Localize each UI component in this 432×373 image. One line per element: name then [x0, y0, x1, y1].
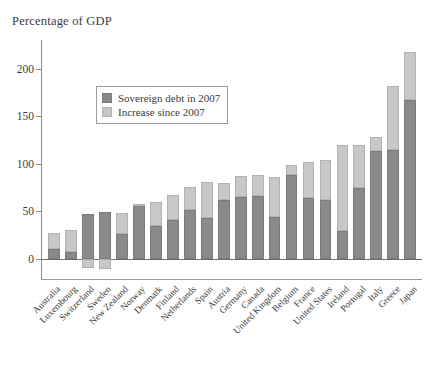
bar-segment-increase[interactable] — [353, 145, 365, 188]
bar-segment-sovereign-debt[interactable] — [201, 218, 213, 259]
bar-group[interactable] — [133, 40, 145, 280]
bar-segment-sovereign-debt[interactable] — [353, 188, 365, 259]
bar-segment-sovereign-debt[interactable] — [235, 197, 247, 259]
bar-group[interactable] — [286, 40, 298, 280]
bar-segment-increase[interactable] — [320, 160, 332, 200]
legend-swatch-icon-sovereign-debt — [102, 93, 112, 103]
bar-group[interactable] — [82, 40, 94, 280]
bar-group[interactable] — [218, 40, 230, 280]
bar-segment-sovereign-debt[interactable] — [218, 200, 230, 259]
legend-item-sovereign-debt: Sovereign debt in 2007 — [102, 91, 220, 105]
bar-segment-sovereign-debt[interactable] — [99, 212, 111, 259]
y-tick-label: 100 — [17, 158, 34, 170]
bar-segment-increase[interactable] — [235, 176, 247, 197]
bar-segment-sovereign-debt[interactable] — [387, 150, 399, 259]
bar-segment-increase[interactable] — [99, 259, 111, 269]
y-tick-label: 0 — [28, 253, 34, 265]
bar-segment-increase[interactable] — [116, 213, 128, 234]
bar-segment-sovereign-debt[interactable] — [167, 220, 179, 259]
bar-group[interactable] — [370, 40, 382, 280]
chart-figure: Percentage of GDP 050100150200 Australia… — [0, 0, 432, 373]
bar-segment-increase[interactable] — [269, 177, 281, 217]
bar-group[interactable] — [303, 40, 315, 280]
y-tick-label: 150 — [17, 110, 34, 122]
bar-segment-sovereign-debt[interactable] — [48, 249, 60, 259]
legend-label-increase: Increase since 2007 — [118, 105, 205, 119]
bar-group[interactable] — [235, 40, 247, 280]
bar-group[interactable] — [65, 40, 77, 280]
bar-segment-sovereign-debt[interactable] — [116, 234, 128, 259]
legend-item-increase: Increase since 2007 — [102, 105, 220, 119]
bar-segment-increase[interactable] — [303, 162, 315, 198]
bar-segment-sovereign-debt[interactable] — [269, 217, 281, 259]
legend-label-sovereign-debt: Sovereign debt in 2007 — [118, 91, 220, 105]
bar-segment-increase[interactable] — [167, 195, 179, 220]
bar-segment-sovereign-debt[interactable] — [150, 226, 162, 259]
bar-group[interactable] — [404, 40, 416, 280]
bar-group[interactable] — [353, 40, 365, 280]
bar-group[interactable] — [167, 40, 179, 280]
bar-segment-increase[interactable] — [387, 86, 399, 150]
y-tick-mark — [36, 116, 41, 117]
bar-segment-sovereign-debt[interactable] — [133, 205, 145, 259]
bar-group[interactable] — [201, 40, 213, 280]
bar-segment-increase[interactable] — [48, 233, 60, 249]
x-axis-label: Japan — [397, 284, 419, 306]
y-tick-mark — [36, 69, 41, 70]
bar-segment-sovereign-debt[interactable] — [252, 196, 264, 259]
bar-group[interactable] — [320, 40, 332, 280]
bar-segment-sovereign-debt[interactable] — [337, 231, 349, 259]
bar-segment-increase[interactable] — [404, 52, 416, 101]
bar-segment-sovereign-debt[interactable] — [303, 198, 315, 259]
bar-segment-sovereign-debt[interactable] — [65, 252, 77, 259]
bar-group[interactable] — [269, 40, 281, 280]
bar-group[interactable] — [116, 40, 128, 280]
bar-segment-increase[interactable] — [218, 183, 230, 200]
bar-segment-sovereign-debt[interactable] — [184, 210, 196, 259]
bar-segment-sovereign-debt[interactable] — [320, 200, 332, 259]
bar-group[interactable] — [387, 40, 399, 280]
bar-segment-increase[interactable] — [65, 230, 77, 253]
y-tick-label: 50 — [23, 205, 35, 217]
bar-group[interactable] — [48, 40, 60, 280]
bar-segment-sovereign-debt[interactable] — [82, 214, 94, 259]
bar-group[interactable] — [337, 40, 349, 280]
bar-segment-increase[interactable] — [201, 182, 213, 218]
bar-segment-increase[interactable] — [370, 137, 382, 150]
bar-segment-sovereign-debt[interactable] — [286, 175, 298, 259]
y-tick-label: 200 — [17, 63, 34, 75]
y-tick-mark — [36, 211, 41, 212]
bar-segment-sovereign-debt[interactable] — [370, 151, 382, 259]
plot-area: 050100150200 AustraliaLuxembourgSwitzerl… — [41, 40, 422, 280]
y-tick-mark — [36, 164, 41, 165]
y-axis-line — [41, 40, 42, 280]
bar-group[interactable] — [99, 40, 111, 280]
bar-segment-increase[interactable] — [252, 175, 264, 196]
legend-swatch-icon-increase — [102, 107, 112, 117]
y-tick-mark — [36, 259, 41, 260]
bar-segment-increase[interactable] — [82, 259, 94, 268]
chart-title: Percentage of GDP — [12, 14, 112, 29]
bar-segment-increase[interactable] — [286, 165, 298, 175]
bar-segment-increase[interactable] — [337, 145, 349, 232]
bar-group[interactable] — [184, 40, 196, 280]
bar-segment-increase[interactable] — [150, 202, 162, 226]
chart-legend: Sovereign debt in 2007 Increase since 20… — [96, 86, 228, 124]
bar-group[interactable] — [252, 40, 264, 280]
bar-group[interactable] — [150, 40, 162, 280]
bar-segment-increase[interactable] — [184, 187, 196, 210]
bar-segment-sovereign-debt[interactable] — [404, 100, 416, 259]
bar-segment-increase[interactable] — [133, 204, 145, 206]
